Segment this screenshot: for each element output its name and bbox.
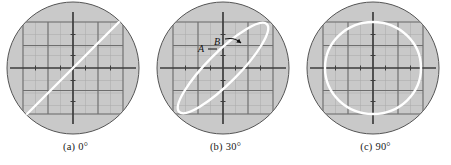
caption-value-c: 90°: [375, 141, 390, 152]
lissajous-figure: (a)0°: [0, 0, 451, 165]
panel-caption-a: (a)0°: [0, 140, 151, 154]
caption-index-c: (c): [360, 141, 372, 152]
scope-screen-b: B A: [150, 0, 301, 140]
scope-panel-c: (c)90°: [300, 0, 451, 165]
caption-index-b: (b): [210, 141, 223, 152]
caption-index-a: (a): [63, 141, 75, 152]
caption-value-a: 0°: [78, 141, 88, 152]
scope-panel-a: (a)0°: [0, 0, 151, 165]
caption-value-b: 30°: [226, 141, 241, 152]
panel-caption-b: (b)30°: [150, 140, 301, 154]
scope-panel-b: B A (b)30°: [150, 0, 301, 165]
panel-caption-c: (c)90°: [300, 140, 451, 154]
annotation-label-B: B: [214, 36, 220, 47]
scope-screen-c: [300, 0, 451, 140]
scope-screen-a: [0, 0, 151, 140]
annotation-label-A: A: [197, 43, 205, 54]
